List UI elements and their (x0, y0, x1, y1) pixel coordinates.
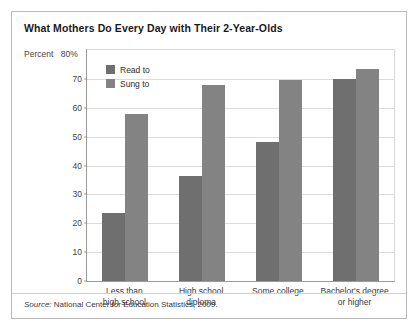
chart-legend: Read toSung to (106, 64, 150, 92)
bar-read-to (333, 79, 356, 281)
y-axis-tick-mark (84, 252, 87, 253)
legend-label: Sung to (120, 79, 149, 89)
y-axis-unit-label: Percent 80% (24, 49, 78, 59)
y-axis-tick-label: 20 (73, 218, 82, 228)
x-axis-category-label: Bachelor's degree or higher (316, 286, 393, 307)
x-axis-category-label: Some college (240, 286, 317, 297)
legend-label: Read to (120, 65, 150, 75)
bar-sung-to (202, 85, 225, 281)
source-note: Source: National Center for Education St… (24, 300, 217, 309)
bar-sung-to (125, 114, 148, 281)
bar-read-to (102, 213, 125, 281)
source-divider (12, 293, 406, 294)
y-axis-tick-mark (84, 136, 87, 137)
bar-group (179, 50, 225, 281)
figure-container: What Mothers Do Every Day with Their 2-Y… (11, 11, 407, 319)
bar-read-to (256, 142, 279, 281)
y-axis-tick-mark (84, 165, 87, 166)
y-axis-tick-label: 40 (73, 161, 82, 171)
bar-group (256, 50, 302, 281)
legend-swatch-icon (106, 65, 115, 74)
bar-sung-to (279, 80, 302, 281)
y-axis-tick-label: 10 (73, 247, 82, 257)
y-axis-tick-label: 50 (73, 132, 82, 142)
y-axis-tick-mark (84, 223, 87, 224)
legend-swatch-icon (106, 79, 115, 88)
bar-group (333, 50, 379, 281)
source-text: National Center for Education Statistics… (52, 300, 218, 309)
bar-sung-to (356, 69, 379, 281)
y-axis-tick-label: 0 (77, 276, 82, 286)
source-label: Source: (24, 300, 52, 309)
y-axis-tick-mark (84, 281, 87, 282)
y-axis-tick-label: 30 (73, 189, 82, 199)
y-axis-tick-label: 60 (73, 103, 82, 113)
y-axis-tick-mark (84, 194, 87, 195)
bar-read-to (179, 176, 202, 281)
legend-item: Sung to (106, 78, 150, 89)
legend-item: Read to (106, 64, 150, 75)
chart-title: What Mothers Do Every Day with Their 2-Y… (24, 22, 283, 34)
y-axis-tick-mark (84, 107, 87, 108)
y-axis-tick-mark (84, 78, 87, 79)
y-axis-max-label: 80% (61, 49, 78, 59)
percent-word: Percent (24, 49, 53, 59)
y-axis-tick-label: 70 (73, 74, 82, 84)
